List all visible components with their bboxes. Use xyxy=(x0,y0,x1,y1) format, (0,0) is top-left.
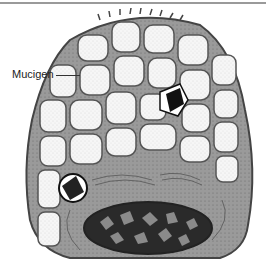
mucigen-label: Mucigen xyxy=(12,68,54,80)
mucigen-leader-line xyxy=(56,75,80,76)
goblet-cell-illustration xyxy=(0,0,266,280)
